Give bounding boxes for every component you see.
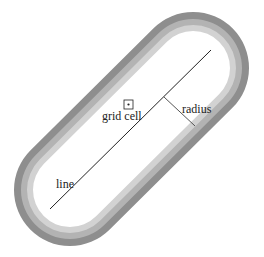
line-label: line bbox=[56, 177, 74, 191]
radius-label: radius bbox=[182, 102, 212, 116]
grid-cell-label: grid cell bbox=[102, 109, 142, 123]
capsule-diagram: grid cell radius line bbox=[0, 0, 264, 257]
grid-cell-dot bbox=[127, 103, 129, 105]
